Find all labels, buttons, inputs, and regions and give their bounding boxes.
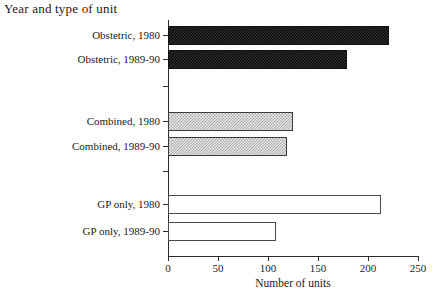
x-tick-label-200: 200 [360, 262, 377, 275]
y-category-label-obstetric-1980: Obstetric, 1980 [92, 29, 160, 42]
y-category-label-combined-1989-90: Combined, 1989-90 [72, 140, 160, 153]
y-axis-tick [163, 171, 168, 172]
x-tick-label-250: 250 [410, 262, 427, 275]
bar-combined-1980 [168, 112, 293, 131]
x-axis-tick [418, 256, 419, 261]
x-axis-line [168, 256, 418, 257]
chart-figure: Year and type of unit Obstetric, 1980 Ob… [0, 0, 437, 297]
x-axis-tick [218, 256, 219, 261]
x-tick-label-100: 100 [260, 262, 277, 275]
x-axis-tick [168, 256, 169, 261]
x-axis-title: Number of units [168, 277, 418, 290]
y-axis-tick [163, 86, 168, 87]
x-axis-tick [268, 256, 269, 261]
y-category-label-combined-1980: Combined, 1980 [87, 115, 160, 128]
y-category-label-gp-only-1989-90: GP only, 1989-90 [83, 225, 160, 238]
y-category-label-obstetric-1989-90: Obstetric, 1989-90 [78, 53, 160, 66]
bar-obstetric-1989-90 [168, 50, 347, 69]
x-tick-label-0: 0 [165, 262, 171, 275]
chart-title: Year and type of unit [4, 1, 117, 16]
x-axis-tick [318, 256, 319, 261]
bar-combined-1989-90 [168, 137, 287, 156]
bar-gp-only-1980 [168, 195, 381, 214]
bar-gp-only-1989-90 [168, 222, 276, 241]
bar-obstetric-1980 [168, 26, 389, 45]
x-tick-label-50: 50 [213, 262, 224, 275]
x-tick-label-150: 150 [310, 262, 327, 275]
y-category-label-gp-only-1980: GP only, 1980 [97, 198, 160, 211]
x-axis-tick [368, 256, 369, 261]
